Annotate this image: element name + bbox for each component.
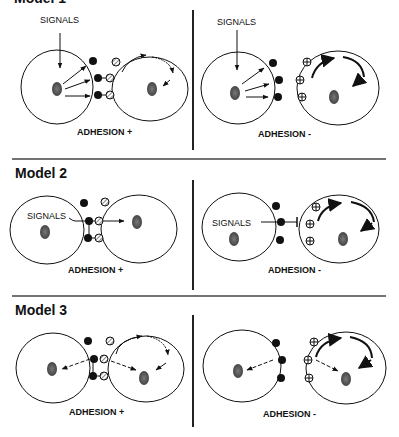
adhesion-label: ADHESION + xyxy=(69,407,124,417)
adhesion-label: ADHESION + xyxy=(68,265,123,275)
signals-label: SIGNALS xyxy=(40,15,79,25)
model2-adhesion-minus xyxy=(202,193,379,263)
signals-label: SIGNALS xyxy=(27,211,66,221)
model1-adhesion-minus xyxy=(201,30,379,125)
signals-label: SIGNALS xyxy=(212,218,251,228)
model1-adhesion-plus xyxy=(21,33,188,124)
model3-adhesion-minus xyxy=(203,330,386,404)
model-1-title: Model 1 xyxy=(14,0,66,6)
adhesion-label: ADHESION + xyxy=(77,127,132,137)
adhesion-label: ADHESION - xyxy=(263,409,316,419)
model2-adhesion-plus xyxy=(10,195,177,264)
adhesion-label: ADHESION - xyxy=(258,129,311,139)
adhesion-label: ADHESION - xyxy=(268,265,321,275)
model-3-title: Model 3 xyxy=(15,302,67,318)
model-2-title: Model 2 xyxy=(15,165,67,181)
model3-adhesion-plus xyxy=(16,333,184,403)
signals-label: SIGNALS xyxy=(217,17,256,27)
